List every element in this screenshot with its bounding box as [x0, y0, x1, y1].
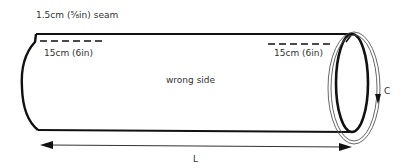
wrong-side-label: wrong side [166, 75, 216, 85]
opening-label-right: 15cm (6in) [274, 48, 323, 58]
tube-diagram: 1.5cm (⅝in) seam 15cm (6in) 15cm (6in) w… [0, 0, 404, 168]
length-label: L [193, 154, 198, 164]
length-arrow-right-icon [339, 143, 352, 151]
diagram-canvas: 1.5cm (⅝in) seam 15cm (6in) 15cm (6in) w… [0, 0, 404, 168]
opening-label-left: 15cm (6in) [44, 48, 93, 58]
length-arrow-left-icon [40, 141, 53, 149]
circumference-label: C [384, 86, 390, 96]
tube-right-opening [336, 34, 368, 132]
seam-label: 1.5cm (⅝in) seam [36, 10, 118, 20]
tube-bottom-edge [38, 130, 352, 132]
length-arrow-line [48, 145, 346, 147]
tube-left-end [22, 34, 38, 130]
